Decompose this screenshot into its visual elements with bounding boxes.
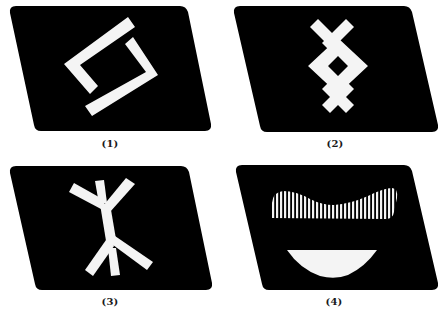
panel-2-label: (2) xyxy=(326,138,343,149)
card-2 xyxy=(234,6,438,132)
panel-3 xyxy=(10,166,212,290)
panel-4-label: (4) xyxy=(325,296,342,307)
panel-2 xyxy=(234,6,438,132)
figure-canvas xyxy=(0,0,443,313)
panel-1 xyxy=(10,6,211,131)
panel-4 xyxy=(236,165,438,290)
panel-1-label: (1) xyxy=(101,138,118,149)
panel-3-label: (3) xyxy=(101,296,118,307)
card-1 xyxy=(10,6,211,131)
